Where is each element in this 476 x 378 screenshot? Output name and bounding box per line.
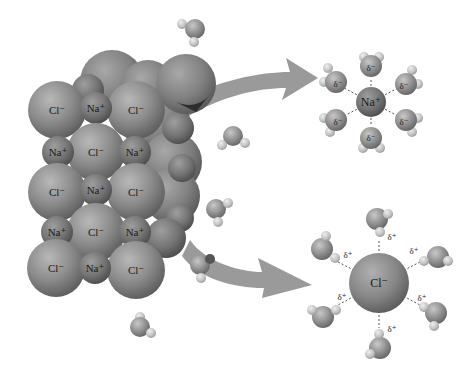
- water-molecule: δ⁺: [418, 293, 448, 331]
- water-molecule: δ⁺: [410, 246, 454, 268]
- water-molecule: δ⁻: [358, 127, 385, 153]
- svg-text:Cl⁻: Cl⁻: [49, 104, 65, 116]
- svg-text:Cl⁻: Cl⁻: [88, 146, 104, 158]
- svg-text:Na⁺: Na⁺: [126, 226, 145, 238]
- water-molecule: [130, 312, 156, 338]
- svg-text:Cl⁻: Cl⁻: [128, 264, 144, 276]
- chloride-ion-label: Cl⁻: [370, 276, 388, 290]
- svg-text:Na⁺: Na⁺: [87, 184, 106, 196]
- water-molecule: δ⁻: [319, 63, 347, 93]
- water-molecule: δ⁺: [311, 231, 353, 263]
- svg-text:δ⁺: δ⁺: [338, 292, 347, 302]
- svg-text:δ⁺: δ⁺: [410, 246, 419, 256]
- lattice-ion-na: Na⁺: [79, 252, 111, 284]
- sodium-ion-label: Na⁺: [361, 95, 381, 109]
- svg-text:δ⁻: δ⁻: [334, 117, 343, 127]
- water-molecule: δ⁻: [395, 109, 423, 137]
- lattice-ion-cl: Cl⁻: [27, 239, 85, 297]
- svg-text:δ⁺: δ⁺: [388, 232, 397, 242]
- water-molecule: δ⁺: [366, 208, 397, 242]
- water-molecule: δ⁻: [319, 109, 347, 137]
- hydrated-chloride-ion: δ⁺ δ⁺ δ⁺ δ⁺ δ⁺: [307, 208, 453, 359]
- lattice-ion-na: Na⁺: [80, 174, 112, 206]
- svg-text:Na⁺: Na⁺: [126, 146, 145, 158]
- water-molecule: [206, 198, 233, 227]
- svg-text:δ⁺: δ⁺: [388, 324, 397, 334]
- svg-text:δ⁻: δ⁻: [334, 79, 343, 89]
- water-molecule: δ⁻: [395, 65, 423, 95]
- water-molecule: δ⁻: [359, 52, 384, 77]
- svg-text:δ⁻: δ⁻: [367, 63, 376, 73]
- nacl-dissolution-diagram: Cl⁻ Cl⁻ Na⁺ Cl⁻ Na⁺ Na⁺ Cl⁻: [0, 0, 476, 378]
- lattice-ion-cl: Cl⁻: [107, 241, 165, 299]
- svg-text:Cl⁻: Cl⁻: [128, 104, 144, 116]
- water-molecule: δ⁺: [365, 324, 397, 359]
- svg-text:Cl⁻: Cl⁻: [48, 262, 64, 274]
- water-molecule: [177, 19, 205, 47]
- svg-text:δ⁺: δ⁺: [344, 250, 353, 260]
- svg-text:Cl⁻: Cl⁻: [49, 186, 65, 198]
- svg-text:Na⁺: Na⁺: [49, 146, 68, 158]
- svg-text:Na⁺: Na⁺: [86, 262, 105, 274]
- hydrated-sodium-ion: δ⁻ δ⁻ δ⁻ δ⁻ δ⁻ δ⁻ Na⁺: [319, 52, 423, 153]
- water-molecule: δ⁺: [307, 292, 347, 328]
- svg-text:Na⁺: Na⁺: [48, 226, 67, 238]
- water-molecule: [217, 126, 250, 150]
- lattice-ion-cl: Cl⁻: [107, 81, 165, 139]
- svg-text:δ⁻: δ⁻: [367, 133, 376, 143]
- svg-text:δ⁺: δ⁺: [418, 293, 427, 303]
- svg-text:δ⁻: δ⁻: [400, 117, 409, 127]
- svg-text:Cl⁻: Cl⁻: [88, 226, 104, 238]
- svg-text:δ⁻: δ⁻: [400, 81, 409, 91]
- svg-text:Cl⁻: Cl⁻: [128, 186, 144, 198]
- lattice-ion-na: Na⁺: [80, 92, 112, 124]
- lattice-front-layer: Cl⁻ Cl⁻ Na⁺ Cl⁻ Na⁺ Na⁺ Cl⁻: [27, 81, 165, 299]
- svg-text:Na⁺: Na⁺: [87, 102, 106, 114]
